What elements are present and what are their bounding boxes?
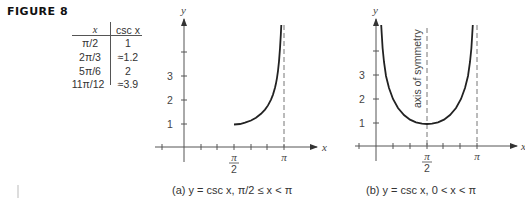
chart-a-curve [234, 25, 281, 125]
chart-b-symmetry-annotation: axis of symmetry [411, 28, 423, 108]
chart-b-x-label: x [520, 140, 525, 152]
chart-b-ytick-3: 3 [359, 69, 365, 81]
chart-b-caption: (b) y = csc x, 0 < x < π [366, 184, 476, 196]
chart-a-x-label: x [321, 141, 327, 153]
chart-a-ytick-3: 3 [167, 70, 173, 82]
chart-b-y-label: y [372, 4, 378, 16]
chart-a-y-label: y [180, 4, 186, 16]
chart-a-ytick-2: 2 [167, 94, 173, 106]
chart-a: y x 1 2 3 π 2 π [155, 4, 327, 175]
chart-a-xtick-pi: π [281, 151, 287, 163]
chart-b-ytick-2: 2 [359, 93, 365, 105]
chart-a-xtick-halfpi-num: π [231, 151, 237, 163]
chart-a-ytick-1: 1 [167, 118, 173, 130]
chart-b-ytick-1: 1 [359, 117, 365, 129]
chart-b-xtick-pi: π [474, 150, 480, 162]
chart-a-xtick-halfpi-den: 2 [231, 163, 237, 175]
chart-a-caption: (a) y = csc x, π/2 ≤ x < π [172, 184, 292, 196]
charts-canvas: y x 1 2 3 π 2 π y x 1 [0, 0, 525, 200]
chart-b-xtick-halfpi-num: π [424, 150, 430, 162]
chart-b: y x 1 2 3 axis of symmetry π 2 π [355, 4, 525, 174]
chart-b-xtick-halfpi-den: 2 [424, 162, 430, 174]
